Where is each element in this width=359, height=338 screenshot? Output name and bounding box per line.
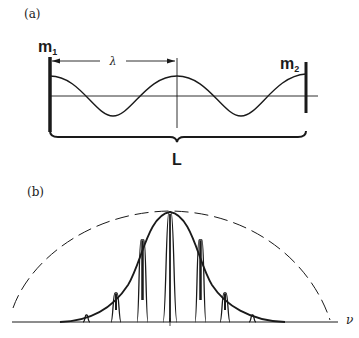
arrowhead-right-icon	[167, 59, 175, 64]
mirror-2-label: m2	[280, 55, 299, 74]
wavelength-arrow: λ	[52, 55, 175, 68]
dashed-envelope	[13, 211, 330, 320]
wavelength-label: λ	[109, 55, 117, 68]
standing-wave	[50, 74, 306, 116]
mirror-1-label: m1	[38, 38, 57, 57]
cavity-length-label: L	[172, 151, 182, 168]
panel-b: (b) ν	[12, 185, 353, 327]
figure: (a) m1 m2 λ L (b) ν	[0, 0, 359, 338]
frequency-axis-label: ν	[346, 313, 353, 327]
panel-a: (a) m1 m2 λ L	[24, 7, 318, 168]
arrowhead-left-icon	[52, 59, 60, 64]
cavity-brace	[50, 131, 306, 142]
panel-b-label: (b)	[27, 185, 44, 199]
panel-a-label: (a)	[24, 7, 41, 21]
